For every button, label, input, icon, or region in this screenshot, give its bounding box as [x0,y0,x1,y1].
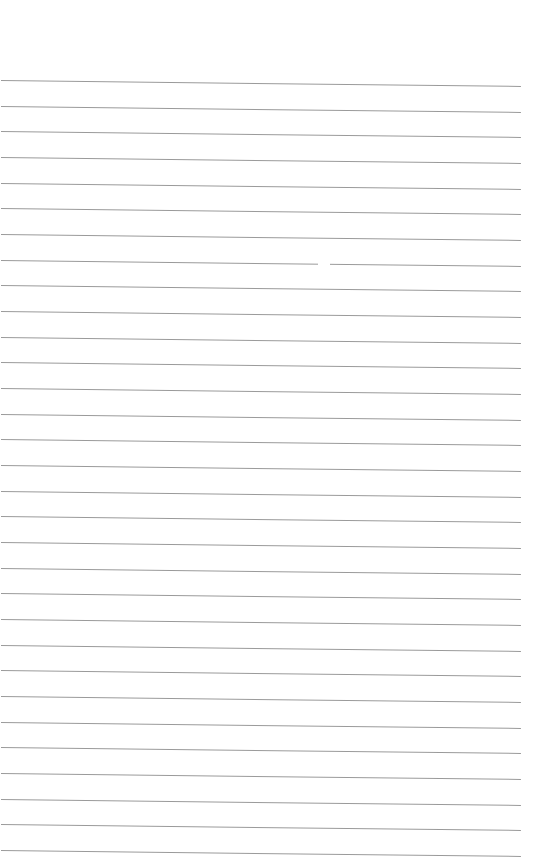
lined-paper-page [0,0,533,865]
ruled-line [1,696,521,703]
ruled-line [1,106,521,113]
ruled-line [1,568,521,575]
ruled-line [1,131,521,138]
ruled-line [1,850,521,857]
ruled-line [1,311,521,318]
ruled-line [1,285,521,292]
ruled-line [1,619,521,626]
ruled-line [1,516,521,523]
line-gap [318,262,330,266]
ruled-line [1,542,521,549]
ruled-line [1,157,521,164]
ruled-line [1,799,521,806]
ruled-line [1,824,521,831]
ruled-line [1,337,521,344]
ruled-line [1,670,521,677]
ruled-line [1,208,521,215]
ruled-line [1,183,521,190]
ruled-line [1,773,521,780]
ruled-line [1,722,521,729]
ruled-line [1,414,521,421]
ruled-line [1,234,521,241]
ruled-line [1,593,521,600]
ruled-line [1,645,521,652]
ruled-line [1,80,521,87]
ruled-line [1,465,521,472]
ruled-line [1,362,521,369]
ruled-line [1,260,521,267]
ruled-line [1,491,521,498]
ruled-line [1,388,521,395]
ruled-line [1,747,521,754]
ruled-line [1,439,521,446]
